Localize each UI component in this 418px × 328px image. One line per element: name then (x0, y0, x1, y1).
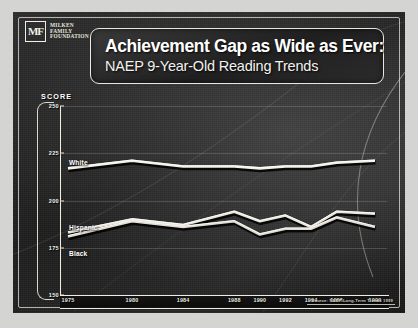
page-title: Achievement Gap as Wide as Ever: (105, 37, 369, 55)
logo-wordmark: Milken Family Foundation (50, 23, 89, 40)
x-tick-label: 1980 (126, 297, 139, 303)
series-label-hispanic: Hispanic (69, 224, 98, 231)
plot-area (62, 106, 387, 295)
x-tick-label: 1990 (253, 297, 266, 303)
logo-monogram-icon: MF (25, 21, 46, 42)
slide-page: MF Milken Family Foundation Achievement … (0, 0, 418, 328)
series-label-white: White (69, 159, 88, 166)
series-lines (62, 106, 387, 295)
y-tick-label: 250 (43, 103, 59, 109)
presentation-slide: MF Milken Family Foundation Achievement … (13, 12, 405, 313)
x-tick-label: 1992 (279, 297, 292, 303)
y-tick-label: 225 (43, 150, 59, 156)
x-tick-label: 1975 (62, 297, 75, 303)
page-subtitle: NAEP 9-Year-Old Reading Trends (105, 58, 369, 75)
title-plaque: Achievement Gap as Wide as Ever: NAEP 9-… (90, 28, 384, 84)
source-note: Source: NAEP Long-Term Trends 1999 (311, 298, 393, 303)
y-axis-title: SCORE (41, 92, 72, 101)
line-chart: SCORE 250225200175150 197519801984198819… (31, 92, 391, 304)
x-axis-line (60, 295, 389, 296)
y-tick-label: 150 (43, 292, 59, 298)
series-label-black: Black (69, 250, 87, 257)
y-tick-label: 175 (43, 245, 59, 251)
y-tick-label: 200 (43, 198, 59, 204)
x-tick-label: 1988 (228, 297, 241, 303)
logo-line-3: Foundation (50, 34, 89, 40)
milken-family-foundation-logo: MF Milken Family Foundation (25, 21, 89, 42)
source-divider (307, 304, 395, 305)
x-tick-label: 1984 (177, 297, 190, 303)
